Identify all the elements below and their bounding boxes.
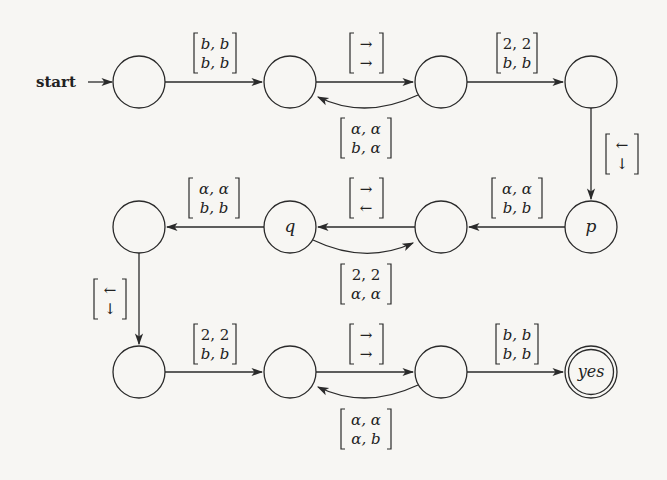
state-label-q: q [285,216,296,236]
edge-label-q-r2c1: α, α b, b [189,178,239,218]
svg-text:b, b: b, b [201,345,230,363]
edge-r3c3-r3c2-curved [318,385,418,398]
svg-text:b, b: b, b [503,54,532,72]
edge-label-r3c2-r3c3: → → [350,324,383,364]
edge-label-r1c1-r1c2: b, b b, b [194,33,236,73]
svg-text:α, α: α, α [199,180,229,198]
svg-text:2, 2: 2, 2 [352,266,381,284]
svg-text:←: ← [360,199,373,217]
edge-label-r1c4-p: ← ↓ [606,134,638,174]
svg-text:→: → [360,54,373,72]
state-node-r1c3 [415,56,467,108]
svg-text:α, α: α, α [502,180,532,198]
svg-text:b, b: b, b [503,199,532,217]
edge-label-r3c1-r3c2: 2, 2 b, b [194,324,236,364]
svg-text:b, b: b, b [201,35,230,53]
svg-text:b, b: b, b [201,54,230,72]
svg-text:b, b: b, b [503,345,532,363]
state-node-r3c1 [113,346,165,398]
svg-text:←: ← [616,136,629,154]
state-node-r1c1 [113,56,165,108]
state-label-p: p [586,216,597,236]
edge-label-r2c1-r3c1: ← ↓ [94,279,126,319]
svg-text:α, α: α, α [351,120,381,138]
svg-text:2, 2: 2, 2 [201,326,230,344]
edge-label-r1c3-r1c4: 2, 2 b, b [497,33,537,73]
svg-text:b, b: b, b [503,326,532,344]
svg-text:→: → [360,345,373,363]
svg-text:b, α: b, α [351,139,380,157]
edge-r1c3-r1c2-curved [318,95,418,108]
svg-text:←: ← [104,281,117,299]
automaton-diagram: start q p yes b, b b, b → → [0,0,667,480]
edge-q-r2c3-curved [313,240,413,253]
state-node-r1c4 [565,56,617,108]
svg-text:↓: ↓ [104,300,117,318]
svg-text:→: → [360,326,373,344]
svg-text:→: → [360,180,373,198]
svg-text:α, α: α, α [351,411,381,429]
state-label-yes: yes [577,362,605,381]
edge-label-r1c2-r1c3: → → [350,33,383,73]
edge-label-r1c3-r1c2: α, α b, α [341,118,391,158]
edge-label-r3c3-yes: b, b b, b [496,324,538,364]
edge-label-r2c3-q: → ← [350,178,383,218]
state-node-r2c1 [113,201,165,253]
state-node-r3c3 [415,346,467,398]
svg-text:→: → [360,35,373,53]
svg-text:b, b: b, b [200,199,229,217]
state-node-r3c2 [264,346,316,398]
svg-text:α, b: α, b [351,430,380,448]
svg-text:α, α: α, α [351,285,381,303]
svg-text:2, 2: 2, 2 [503,35,532,53]
svg-text:↓: ↓ [616,155,629,173]
edge-label-r3c3-r3c2: α, α α, b [341,409,391,449]
state-node-r1c2 [264,56,316,108]
state-node-r2c3 [415,201,467,253]
edge-label-q-r2c3: 2, 2 α, α [341,264,391,304]
edge-label-p-r2c3: α, α b, b [492,178,542,218]
start-label: start [36,73,76,91]
